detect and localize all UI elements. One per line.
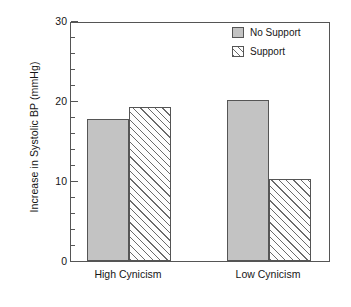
- legend-item: Support: [232, 46, 301, 57]
- y-tick-label: 10: [55, 175, 67, 187]
- tick-mark: [71, 181, 78, 182]
- tick-mark: [71, 69, 75, 70]
- legend-swatch-icon: [232, 27, 244, 38]
- tick-mark: [71, 133, 75, 134]
- legend-item: No Support: [232, 27, 301, 38]
- tick-mark: [71, 21, 78, 22]
- bar: [87, 119, 129, 261]
- tick-mark: [71, 245, 75, 246]
- tick-mark: [71, 229, 75, 230]
- bar: [227, 100, 269, 261]
- tick-mark: [71, 53, 75, 54]
- x-axis-category-label: High Cynicism: [68, 268, 188, 280]
- y-tick-label: 0: [61, 255, 67, 267]
- tick-mark: [71, 213, 75, 214]
- chart-figure: Increase in Systolic BP (mmHg) 0102030 H…: [0, 0, 351, 307]
- legend-swatch-icon: [232, 46, 244, 57]
- tick-mark: [71, 37, 75, 38]
- tick-mark: [71, 117, 75, 118]
- bar: [129, 107, 171, 261]
- y-tick-label: 30: [55, 15, 67, 27]
- x-axis-category-label: Low Cynicism: [208, 268, 328, 280]
- tick-mark: [71, 149, 75, 150]
- tick-mark: [71, 101, 78, 102]
- chart-legend: No SupportSupport: [232, 27, 301, 65]
- legend-label: Support: [250, 46, 285, 57]
- y-tick-label: 20: [55, 95, 67, 107]
- legend-label: No Support: [250, 27, 301, 38]
- bar: [269, 179, 311, 261]
- y-axis-title: Increase in Systolic BP (mmHg): [28, 17, 40, 257]
- tick-mark: [71, 261, 78, 262]
- tick-mark: [71, 165, 75, 166]
- tick-mark: [71, 85, 75, 86]
- tick-mark: [71, 197, 75, 198]
